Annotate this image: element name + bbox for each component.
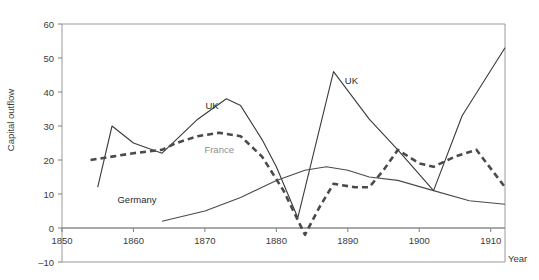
y-tick-label: 50 bbox=[43, 53, 54, 64]
series-label-germany: Germany bbox=[117, 194, 156, 205]
chart-figure: 1850186018701880189019001910 –1001020304… bbox=[0, 0, 539, 280]
series-label-uk-2: UK bbox=[345, 75, 359, 86]
x-tick-label: 1890 bbox=[337, 235, 358, 246]
y-tick-label: 60 bbox=[43, 19, 54, 30]
x-tick-label: 1850 bbox=[51, 235, 72, 246]
series-label-uk: UK bbox=[205, 100, 219, 111]
y-tick-label: 20 bbox=[43, 155, 54, 166]
x-tick-label: 1870 bbox=[194, 235, 215, 246]
x-tick-label: 1910 bbox=[480, 235, 501, 246]
x-tick-label: 1860 bbox=[123, 235, 144, 246]
series-label-france: France bbox=[204, 144, 234, 155]
y-tick-label: 0 bbox=[49, 223, 54, 234]
y-tick-label: 40 bbox=[43, 87, 54, 98]
y-axis-title: Capital outflow bbox=[5, 89, 16, 151]
y-tick-label: 10 bbox=[43, 189, 54, 200]
x-tick-label: 1900 bbox=[409, 235, 430, 246]
y-tick-label: –10 bbox=[38, 257, 54, 268]
x-tick-label: 1880 bbox=[266, 235, 287, 246]
y-tick-label: 30 bbox=[43, 121, 54, 132]
capital-outflow-line-chart: 1850186018701880189019001910 –1001020304… bbox=[0, 0, 539, 280]
x-axis-title: Year bbox=[508, 253, 527, 264]
